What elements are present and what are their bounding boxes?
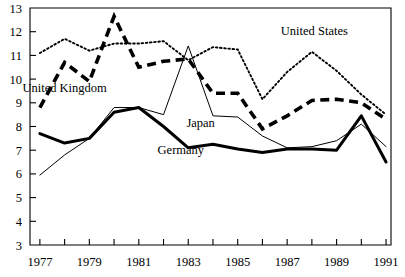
x-axis-ticks: 19771979198119831985198719891991 bbox=[27, 239, 398, 269]
chart-canvas: 131211109876543 197719791981198319851987… bbox=[0, 0, 405, 277]
y-tick-label: 4 bbox=[16, 215, 23, 229]
y-tick-label: 11 bbox=[10, 49, 22, 63]
y-tick-label: 6 bbox=[16, 167, 22, 181]
series-label-japan: Japan bbox=[186, 116, 215, 130]
x-tick-label: 1983 bbox=[176, 255, 201, 269]
y-tick-label: 13 bbox=[10, 2, 23, 16]
y-tick-label: 3 bbox=[16, 239, 22, 253]
x-tick-label: 1985 bbox=[225, 255, 250, 269]
y-tick-label: 5 bbox=[16, 191, 22, 205]
line-chart: 131211109876543 197719791981198319851987… bbox=[0, 0, 405, 277]
x-tick-label: 1977 bbox=[27, 255, 52, 269]
series-annotations: United StatesUnited KingdomJapanGermany bbox=[22, 24, 348, 157]
y-tick-label: 7 bbox=[16, 144, 22, 158]
x-tick-label: 1981 bbox=[126, 255, 151, 269]
series-label-united-kingdom: United Kingdom bbox=[22, 81, 107, 95]
series-label-united-states: United States bbox=[281, 24, 348, 38]
x-tick-label: 1987 bbox=[275, 255, 300, 269]
y-tick-label: 8 bbox=[16, 120, 22, 134]
series-label-germany: Germany bbox=[158, 143, 205, 157]
y-tick-label: 10 bbox=[10, 73, 23, 87]
x-tick-label: 1979 bbox=[77, 255, 102, 269]
y-tick-label: 9 bbox=[16, 96, 22, 110]
chart-series bbox=[40, 16, 386, 175]
y-axis-ticks: 131211109876543 bbox=[10, 2, 37, 253]
y-tick-label: 12 bbox=[10, 25, 23, 39]
series-line-japan bbox=[40, 46, 386, 175]
x-tick-label: 1991 bbox=[374, 255, 399, 269]
x-tick-label: 1989 bbox=[324, 255, 349, 269]
